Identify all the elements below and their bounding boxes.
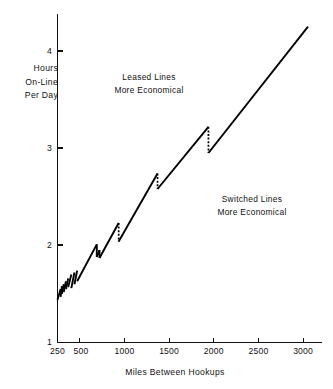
x-axis-tick-labels: 250 500 1000 1500 2000 2500 3000 bbox=[50, 346, 313, 356]
y-axis-tick-labels: 4 3 2 1 bbox=[47, 46, 52, 347]
annotation-leased-line-1: Leased Lines bbox=[122, 72, 175, 82]
x-axis-title: Miles Between Hookups bbox=[125, 367, 225, 377]
data-series-breakeven-curve bbox=[58, 27, 309, 300]
y-tick-label-4: 4 bbox=[47, 46, 52, 56]
chart-plot-area: 4 3 2 1 250 500 1000 1500 2000 2500 3000… bbox=[0, 0, 333, 389]
x-tick-label-3000: 3000 bbox=[293, 346, 313, 356]
annotation-switched-line-1: Switched Lines bbox=[222, 194, 283, 204]
x-tick-label-1000: 1000 bbox=[115, 346, 135, 356]
x-tick-label-500: 500 bbox=[74, 346, 89, 356]
annotation-leased-line-2: More Economical bbox=[114, 85, 183, 95]
x-tick-label-2500: 2500 bbox=[248, 346, 268, 356]
curve-ramp-11 bbox=[99, 223, 118, 258]
chart-figure: Hours On-Line Per Day 4 3 2 1 bbox=[0, 0, 333, 389]
curve-ramp-9 bbox=[77, 244, 97, 281]
x-axis-ticks bbox=[58, 338, 304, 343]
curve-ramp-13 bbox=[158, 127, 209, 189]
annotation-switched-lines: Switched Lines More Economical bbox=[217, 194, 286, 217]
curve-ramp-14 bbox=[208, 27, 308, 153]
curve-ramp-12 bbox=[119, 173, 158, 241]
x-tick-label-2000: 2000 bbox=[204, 346, 224, 356]
y-tick-label-2: 2 bbox=[47, 240, 52, 250]
axes bbox=[58, 14, 323, 343]
x-tick-label-250: 250 bbox=[50, 346, 65, 356]
curve-ramp-6 bbox=[68, 274, 71, 287]
x-tick-label-1500: 1500 bbox=[159, 346, 179, 356]
y-tick-label-3: 3 bbox=[47, 143, 52, 153]
annotation-switched-line-2: More Economical bbox=[217, 207, 286, 217]
curve-ramp-5 bbox=[66, 278, 68, 289]
annotation-leased-lines: Leased Lines More Economical bbox=[114, 72, 183, 95]
